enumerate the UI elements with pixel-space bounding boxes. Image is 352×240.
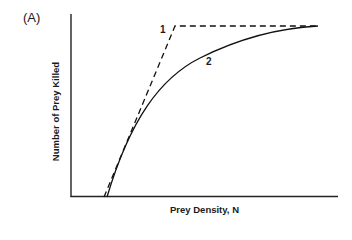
series-1-label: 1 bbox=[160, 24, 166, 35]
series-1-dashed-line bbox=[104, 26, 318, 197]
series-2-solid-curve bbox=[107, 26, 318, 197]
x-axis-label: Prey Density, N bbox=[71, 204, 338, 215]
y-axis-label: Number of Prey Killed bbox=[50, 32, 61, 192]
series-2-label: 2 bbox=[206, 56, 212, 67]
